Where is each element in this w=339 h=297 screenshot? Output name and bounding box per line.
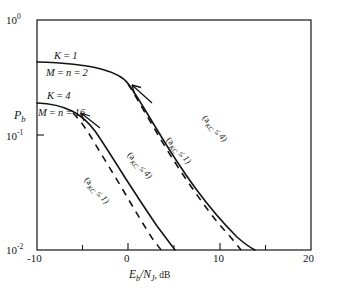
y-tick-label-1e-2: 10-2 [6, 242, 23, 256]
x-tick-label-20: 20 [303, 252, 314, 264]
curve-label-k1-line1: K = 1 [54, 50, 78, 61]
curve-label-k1-line2: M = n = 2 [46, 67, 88, 78]
x-tick-label-0: 0 [124, 252, 130, 264]
curve-label-k4-line2: M = n = 16 [38, 107, 85, 118]
x-axis-title: Eb/NJ, dB [129, 268, 170, 283]
plot-frame [37, 20, 311, 250]
y-axis-title: Pb [14, 108, 26, 124]
y-tick-label-1e-1: 10-1 [6, 128, 23, 142]
curve-label-k4-line1: K = 4 [47, 90, 71, 101]
y-tick-label-1e0: 100 [6, 12, 21, 26]
figure-container: 100 10-1 10-2 -10 0 10 20 Pb Eb/NJ, dB K… [0, 0, 339, 297]
x-tick-label-10: 10 [213, 252, 224, 264]
x-tick-label-neg10: -10 [27, 252, 42, 264]
